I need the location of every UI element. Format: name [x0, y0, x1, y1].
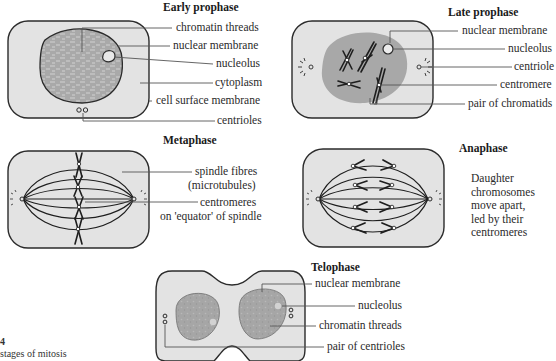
metaphase-title: Metaphase — [163, 134, 217, 146]
label-nucleolus: nucleolus — [508, 42, 552, 55]
anaphase-description: Daughter chromosomes move apart, led by … — [471, 172, 535, 240]
label-centriole: centriole — [514, 60, 554, 73]
nucleolus — [383, 44, 393, 54]
label-centrioles: centrioles — [217, 114, 262, 127]
label-chromatin-threads: chromatin threads — [319, 319, 402, 332]
centriole — [83, 108, 87, 112]
label-spindle-fibres: spindle fibres — [195, 165, 257, 178]
nucleus — [40, 29, 122, 103]
centriole — [77, 108, 81, 112]
telophase-title: Telophase — [311, 261, 360, 273]
label-cytoplasm: cytoplasm — [215, 76, 262, 89]
label-nucleolus: nucleolus — [358, 299, 402, 312]
nucleolus — [103, 51, 115, 62]
label-nucleolus: nucleolus — [216, 57, 260, 70]
anaphase-title: Anaphase — [459, 142, 508, 154]
figure-number: 4 — [0, 336, 5, 347]
label-pair-of-chromatids: pair of chromatids — [468, 97, 552, 110]
label-chromatin-threads: chromatin threads — [176, 21, 259, 34]
metaphase-cell — [8, 151, 198, 248]
label-nuclear-membrane: nuclear membrane — [462, 24, 547, 37]
figure-caption: stages of mitosis — [0, 348, 67, 359]
label-centromeres: centromeres — [200, 196, 256, 209]
label-pair-of-centrioles: pair of centrioles — [327, 340, 405, 353]
label-microtubules: (microtubules) — [188, 179, 256, 192]
label-cell-surface-membrane: cell surface membrane — [156, 94, 260, 107]
early-prophase-title: Early prophase — [163, 1, 239, 13]
late-prophase-title: Late prophase — [448, 6, 518, 18]
label-centromere: centromere — [500, 78, 552, 91]
label-nuclear-membrane: nuclear membrane — [173, 39, 258, 52]
label-nuclear-membrane: nuclear membrane — [315, 277, 400, 290]
anaphase-cell — [303, 149, 444, 247]
label-equator-of-spindle: on 'equator' of spindle — [160, 210, 262, 223]
